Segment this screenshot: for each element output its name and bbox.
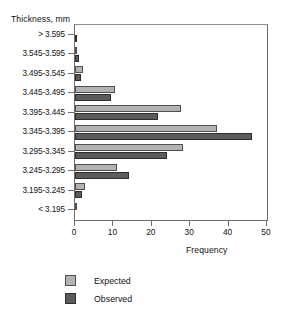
bars-layer: [75, 25, 267, 220]
category-tick-4: [68, 112, 74, 113]
category-label-8: 3.195-3.245: [22, 185, 65, 194]
category-tick-0: [68, 34, 74, 35]
legend-label-observed: Observed: [94, 294, 132, 304]
x-tick-label-30: 30: [185, 227, 194, 237]
bar-observed-7: [75, 172, 129, 179]
category-axis: > 3.5953.545-3.5953.495-3.5453.445-3.495…: [0, 24, 72, 220]
bar-observed-5: [75, 133, 252, 140]
x-tick-label-10: 10: [108, 227, 117, 237]
bar-observed-1: [75, 55, 79, 62]
category-label-1: 3.545-3.595: [22, 49, 65, 58]
bar-expected-8: [75, 183, 85, 190]
legend-item-observed[interactable]: Observed: [65, 290, 225, 307]
category-label-5: 3.345-3.395: [22, 127, 65, 136]
x-tick-label-50: 50: [261, 227, 270, 237]
bar-expected-1: [75, 47, 77, 54]
category-label-3: 3.445-3.495: [22, 88, 65, 97]
bar-expected-4: [75, 105, 181, 112]
x-tick-20: [151, 221, 152, 226]
x-tick-0: [74, 221, 75, 226]
category-tick-6: [68, 151, 74, 152]
x-axis-title: Frequency: [186, 245, 228, 255]
bar-expected-7: [75, 164, 117, 171]
category-tick-3: [68, 92, 74, 93]
category-tick-1: [68, 53, 74, 54]
category-label-9: < 3.195: [38, 205, 65, 214]
category-label-6: 3.295-3.345: [22, 146, 65, 155]
bar-expected-2: [75, 66, 83, 73]
bar-expected-5: [75, 125, 217, 132]
x-tick-30: [189, 221, 190, 226]
bar-observed-8: [75, 191, 82, 198]
bar-expected-3: [75, 86, 115, 93]
legend-swatch-observed: [65, 293, 76, 304]
category-tick-5: [68, 131, 74, 132]
category-tick-8: [68, 190, 74, 191]
x-tick-10: [112, 221, 113, 226]
x-tick-50: [266, 221, 267, 226]
category-tick-9: [68, 209, 74, 210]
category-label-2: 3.495-3.545: [22, 68, 65, 77]
x-tick-label-20: 20: [146, 227, 155, 237]
bar-observed-2: [75, 74, 81, 81]
bar-observed-0: [75, 35, 77, 42]
category-tick-7: [68, 170, 74, 171]
x-tick-40: [228, 221, 229, 226]
x-axis-tick-labels: 01020304050: [0, 227, 288, 241]
category-label-4: 3.395-3.445: [22, 107, 65, 116]
bar-observed-6: [75, 152, 167, 159]
bar-expected-6: [75, 144, 183, 151]
chart-legend: ExpectedObserved: [65, 272, 225, 308]
legend-label-expected: Expected: [94, 276, 131, 286]
y-axis-title: Thickness, mm: [11, 14, 70, 24]
legend-swatch-expected: [65, 275, 76, 286]
x-tick-label-0: 0: [72, 227, 77, 237]
category-label-7: 3.245-3.295: [22, 166, 65, 175]
bar-observed-3: [75, 94, 111, 101]
category-tick-2: [68, 73, 74, 74]
thickness-frequency-chart: Thickness, mm > 3.5953.545-3.5953.495-3.…: [0, 0, 288, 316]
legend-item-expected[interactable]: Expected: [65, 272, 225, 289]
x-tick-label-40: 40: [223, 227, 232, 237]
chart-title-remnant: [0, 0, 288, 8]
bar-expected-9: [75, 203, 77, 210]
bar-observed-4: [75, 113, 158, 120]
category-label-0: > 3.595: [38, 29, 65, 38]
